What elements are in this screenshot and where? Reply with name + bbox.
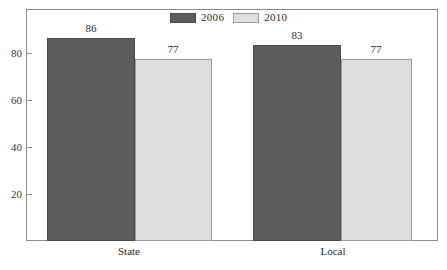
y-axis-tick-20 <box>26 194 32 195</box>
legend-label-2006: 2006 <box>201 12 224 23</box>
bar-value-state-2010: 77 <box>153 43 193 55</box>
bar-value-state-2006: 86 <box>71 22 111 34</box>
bar-state-2006[interactable] <box>47 38 135 241</box>
bar-local-2010[interactable] <box>341 59 412 241</box>
y-axis-label-20: 20 <box>0 188 22 200</box>
legend-entry-2010: 2010 <box>233 12 287 23</box>
y-axis-label-60: 60 <box>0 94 22 106</box>
bar-state-2010[interactable] <box>135 59 212 241</box>
y-axis-tick-60 <box>26 100 32 101</box>
y-axis-tick-40 <box>26 147 32 148</box>
x-axis-label-state: State <box>84 245 174 257</box>
bar-chart: 80 60 40 20 2006 2010 86 77 83 77 State … <box>0 0 447 270</box>
bar-local-2006[interactable] <box>253 45 341 241</box>
y-axis-tick-80 <box>26 53 32 54</box>
legend-label-2010: 2010 <box>264 12 287 23</box>
x-axis-label-local: Local <box>288 245 378 257</box>
legend-entry-2006: 2006 <box>170 12 224 23</box>
legend-swatch-2010-icon <box>233 13 259 23</box>
chart-legend: 2006 2010 <box>170 12 287 23</box>
bar-value-local-2010: 77 <box>356 43 396 55</box>
y-axis-label-40: 40 <box>0 141 22 153</box>
legend-swatch-2006-icon <box>170 13 196 23</box>
y-axis-label-80: 80 <box>0 47 22 59</box>
bar-value-local-2006: 83 <box>277 29 317 41</box>
